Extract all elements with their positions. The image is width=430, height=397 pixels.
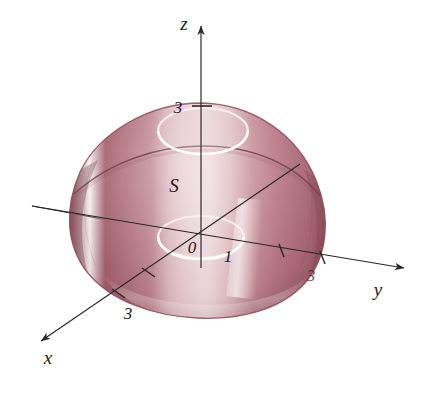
x-axis-label: x — [43, 347, 53, 368]
y-axis-label: y — [372, 279, 383, 300]
z-axis-label: z — [179, 13, 188, 34]
surface-label-s: S — [169, 175, 179, 196]
z-axis-tick-label-3: 3 — [173, 98, 183, 117]
y-axis-tick-3 — [320, 251, 325, 264]
unit-radius-label: 1 — [224, 247, 233, 266]
three-d-surface-diagram: z y x 3 3 3 S 0 1 — [0, 0, 430, 397]
origin-label: 0 — [188, 238, 197, 257]
y-axis-tick-label-3: 3 — [306, 266, 316, 285]
x-axis-tick-label-3: 3 — [123, 304, 133, 323]
figure-container: z y x 3 3 3 S 0 1 — [0, 0, 430, 397]
